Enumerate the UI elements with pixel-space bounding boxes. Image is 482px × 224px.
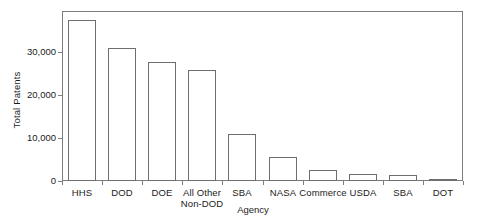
bar [228, 134, 256, 181]
y-axis-tick-label: 20,000 [10, 90, 56, 100]
x-axis-title-text: Agency [237, 204, 269, 215]
x-axis-tick [383, 181, 384, 185]
y-axis-labels: 010,00020,00030,000 [0, 0, 56, 224]
x-axis-tick [62, 181, 63, 185]
y-axis-tick [58, 95, 62, 96]
bar [68, 20, 96, 181]
x-axis-tick [142, 181, 143, 185]
bar [269, 157, 297, 181]
y-axis-tick-label: 10,000 [10, 133, 56, 143]
x-axis-tick [222, 181, 223, 185]
bar [429, 179, 457, 181]
bar [389, 175, 417, 181]
y-axis-tick-label: 30,000 [10, 47, 56, 57]
bar [188, 70, 216, 181]
x-axis-tick [182, 181, 183, 185]
x-axis-tick [303, 181, 304, 185]
y-axis-tick-label: 0 [10, 176, 56, 186]
x-axis-tick [263, 181, 264, 185]
bar-chart-figure: Total Patents 010,00020,00030,000 Agency… [0, 0, 482, 224]
x-axis-title: Agency [0, 204, 482, 215]
x-axis-tick [423, 181, 424, 185]
y-axis-tick [58, 52, 62, 53]
bar [349, 174, 377, 181]
bar [108, 48, 136, 181]
x-axis-tick [463, 181, 464, 185]
x-axis-tick [102, 181, 103, 185]
x-axis-tick [343, 181, 344, 185]
bar [148, 62, 176, 181]
y-axis-tick [58, 138, 62, 139]
x-axis-category-label: DOT [417, 187, 469, 198]
bar [309, 170, 337, 181]
